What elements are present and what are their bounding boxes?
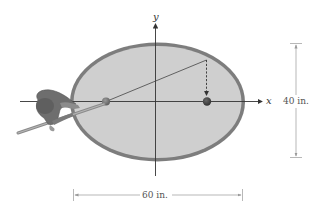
elliptical-table — [70, 43, 245, 162]
diagram-svg — [0, 0, 324, 211]
x-axis-label: x — [266, 96, 272, 106]
height-dimension-label: 40 in. — [283, 96, 309, 106]
diagram-canvas: y x 40 in. 60 in. — [0, 0, 324, 211]
target-ball — [203, 97, 211, 105]
y-axis-label: y — [153, 12, 159, 22]
width-dimension-label: 60 in. — [142, 190, 168, 200]
